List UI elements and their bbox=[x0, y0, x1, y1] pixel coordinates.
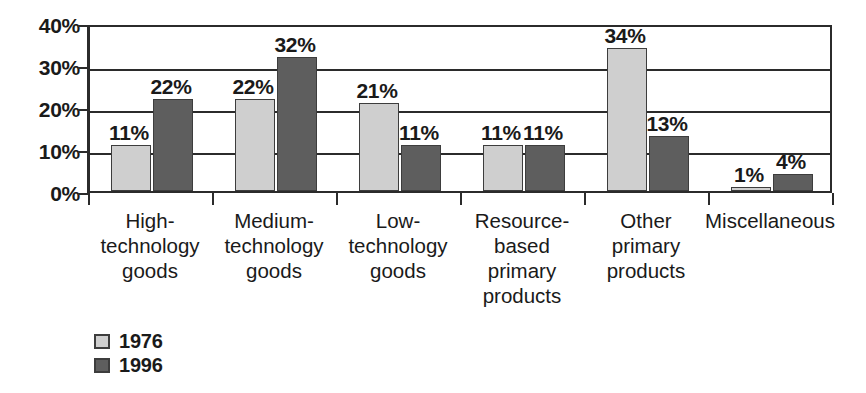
legend-label: 1996 bbox=[119, 355, 163, 375]
bar-value-label: 32% bbox=[265, 34, 325, 55]
bar-value-label: 11% bbox=[389, 122, 449, 143]
bar-1976-0 bbox=[111, 145, 151, 191]
y-axis-tick-label: 30% bbox=[18, 57, 80, 78]
bar-chart: 0%10%20%30%40% High- technology goodsMed… bbox=[0, 0, 866, 393]
bar-value-label: 34% bbox=[595, 25, 655, 46]
gridline bbox=[90, 69, 830, 71]
x-axis-tick-mark bbox=[212, 193, 214, 205]
bar-1996-4 bbox=[649, 136, 689, 191]
chart-legend: 19761996 bbox=[94, 329, 163, 377]
bar-1976-2 bbox=[359, 103, 399, 191]
bar-value-label: 13% bbox=[637, 113, 697, 134]
x-axis-tick-mark bbox=[336, 193, 338, 205]
bar-1996-2 bbox=[401, 145, 441, 191]
bar-value-label: 11% bbox=[513, 122, 573, 143]
y-axis-tick-mark bbox=[78, 151, 89, 153]
y-axis-labels: 0%10%20%30%40% bbox=[14, 0, 80, 393]
y-axis-tick-mark bbox=[78, 25, 89, 27]
bar-1976-3 bbox=[483, 145, 523, 191]
bar-1996-0 bbox=[153, 99, 193, 191]
y-axis-tick-mark bbox=[78, 67, 89, 69]
legend-label: 1976 bbox=[119, 331, 163, 351]
x-axis-tick-mark bbox=[88, 193, 90, 205]
y-axis-tick-mark bbox=[78, 109, 89, 111]
bar-1996-3 bbox=[525, 145, 565, 191]
bar-value-label: 21% bbox=[347, 80, 407, 101]
gridline bbox=[90, 153, 830, 155]
bar-value-label: 22% bbox=[223, 76, 283, 97]
y-axis-tick-label: 40% bbox=[18, 15, 80, 36]
bar-1976-5 bbox=[731, 187, 771, 191]
legend-swatch-icon bbox=[94, 334, 110, 349]
bar-value-label: 22% bbox=[141, 76, 201, 97]
x-axis-tick-mark bbox=[708, 193, 710, 205]
legend-item: 1996 bbox=[94, 353, 163, 377]
bar-1996-1 bbox=[277, 57, 317, 191]
bar-value-label: 4% bbox=[761, 151, 821, 172]
x-axis-category-label: Miscellaneous bbox=[694, 208, 846, 233]
gridline bbox=[90, 111, 830, 113]
x-axis-tick-mark bbox=[832, 193, 834, 205]
x-axis-tick-mark bbox=[584, 193, 586, 205]
y-axis-tick-label: 20% bbox=[18, 99, 80, 120]
legend-swatch-icon bbox=[94, 358, 110, 373]
bar-1996-5 bbox=[773, 174, 813, 191]
y-axis-tick-label: 10% bbox=[18, 141, 80, 162]
x-axis-tick-mark bbox=[460, 193, 462, 205]
bar-1976-1 bbox=[235, 99, 275, 191]
legend-item: 1976 bbox=[94, 329, 163, 353]
y-axis-tick-label: 0% bbox=[18, 183, 80, 204]
bar-value-label: 11% bbox=[99, 122, 159, 143]
